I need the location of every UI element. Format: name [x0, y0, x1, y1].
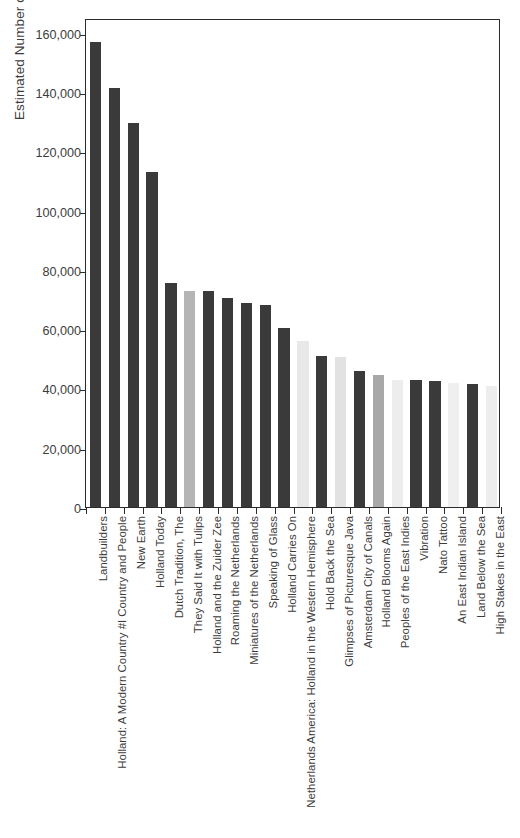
x-label: Speaking of Glass [268, 516, 279, 608]
bar-chart: Estimated Number of Viewers 020,00040,00… [0, 0, 520, 838]
x-tick-label: Land Below the Sea [476, 516, 487, 618]
y-tick-label: 20,000 [42, 443, 81, 456]
bar [410, 380, 421, 507]
x-tick-label: Holland Blooms Again [381, 516, 392, 627]
x-tick-mark [275, 507, 276, 514]
bar [467, 384, 478, 507]
x-tick-label: Roaming the Netherlands [230, 516, 241, 645]
x-tick-mark [237, 507, 238, 514]
bar [448, 383, 459, 507]
bar [260, 305, 271, 507]
x-label: Peoples of the East Indies [400, 516, 411, 648]
bar [222, 298, 233, 507]
bar [429, 381, 440, 507]
x-tick-label: Holland and the Zuider Zee [212, 516, 223, 654]
x-tick-mark [312, 507, 313, 514]
x-tick-mark [143, 507, 144, 514]
y-tick-label: 80,000 [42, 266, 81, 279]
y-tick-label: 40,000 [42, 384, 81, 397]
y-tick-label: 140,000 [35, 88, 81, 101]
bar [203, 291, 214, 507]
x-label: New Earth [136, 516, 147, 569]
bar [90, 42, 101, 507]
x-label: High Stakes in the East [495, 516, 506, 634]
x-tick-label: Holland Today [155, 516, 166, 588]
x-label: Holland: A Modern Country #I Country and… [117, 516, 128, 769]
bar [184, 291, 195, 507]
bar [146, 172, 157, 507]
x-tick-mark [482, 507, 483, 514]
x-tick-label: An East Indian Island [457, 516, 468, 624]
bar-series [86, 20, 499, 507]
x-tick-label: Holland: A Modern Country #I Country and… [117, 516, 128, 769]
x-tick-label: Landbuilders [98, 516, 109, 581]
x-tick-mark [256, 507, 257, 514]
bar [128, 123, 139, 507]
x-label: Holland and the Zuider Zee [212, 516, 223, 654]
x-label: Roaming the Netherlands [230, 516, 241, 645]
x-label: An East Indian Island [457, 516, 468, 624]
x-tick-label: Glimpses of Picturesque Java [344, 516, 355, 667]
y-axis-title-container: Estimated Number of Viewers [10, 0, 36, 520]
x-tick-mark [161, 507, 162, 514]
x-label: Dutch Tradition, The [174, 516, 185, 618]
x-tick-label: Peoples of the East Indies [400, 516, 411, 648]
y-tick-label: 160,000 [35, 29, 81, 42]
x-label: Holland Blooms Again [381, 516, 392, 627]
x-tick-label: Speaking of Glass [268, 516, 279, 608]
x-tick-mark [444, 507, 445, 514]
x-label: Holland Carries On [287, 516, 298, 613]
x-tick-mark [501, 507, 502, 514]
plot-area: 020,00040,00060,00080,000100,000120,0001… [85, 19, 500, 508]
y-tick-label: 100,000 [35, 206, 81, 219]
y-tick-label: 0 [74, 503, 81, 516]
x-label: Landbuilders [98, 516, 109, 581]
x-tick-mark [218, 507, 219, 514]
x-label: Hold Back the Sea [325, 516, 336, 610]
x-label: They Said It with Tulips [193, 516, 204, 633]
x-tick-label: Vibration [419, 516, 430, 561]
x-tick-label: Amsterdam City of Canals [363, 516, 374, 648]
x-label: Amsterdam City of Canals [363, 516, 374, 648]
x-tick-mark [180, 507, 181, 514]
bar [165, 283, 176, 507]
x-tick-mark [407, 507, 408, 514]
x-tick-mark [331, 507, 332, 514]
bar [354, 371, 365, 507]
y-tick-label: 60,000 [42, 325, 81, 338]
x-tick-label: Dutch Tradition, The [174, 516, 185, 618]
x-tick-mark [369, 507, 370, 514]
x-tick-label: Nato Tattoo [438, 516, 449, 574]
bar [373, 375, 384, 507]
x-label: Miniatures of the Netherlands [249, 516, 260, 665]
x-tick-mark [86, 507, 87, 514]
x-tick-mark [350, 507, 351, 514]
x-tick-label: Holland Carries On [287, 516, 298, 613]
x-tick-mark [463, 507, 464, 514]
x-tick-mark [388, 507, 389, 514]
x-label: Glimpses of Picturesque Java [344, 516, 355, 667]
x-label: Netherlands America: Holland in the West… [306, 516, 317, 808]
y-tick-label: 120,000 [35, 147, 81, 160]
bar [335, 357, 346, 507]
bar [109, 88, 120, 507]
bar [241, 303, 252, 507]
x-label: Vibration [419, 516, 430, 561]
x-tick-label: High Stakes in the East [495, 516, 506, 634]
x-tick-label: Miniatures of the Netherlands [249, 516, 260, 665]
x-tick-label: Hold Back the Sea [325, 516, 336, 610]
x-tick-label: New Earth [136, 516, 147, 569]
bar [297, 341, 308, 507]
y-axis-title: Estimated Number of Viewers [12, 0, 27, 120]
bar [316, 356, 327, 507]
bar [392, 380, 403, 507]
x-label: Land Below the Sea [476, 516, 487, 618]
x-tick-label: They Said It with Tulips [193, 516, 204, 633]
bar [278, 328, 289, 507]
x-tick-mark [199, 507, 200, 514]
x-tick-mark [294, 507, 295, 514]
x-tick-label: Netherlands America: Holland in the West… [306, 516, 317, 808]
x-tick-mark [105, 507, 106, 514]
x-axis-labels: LandbuildersHolland: A Modern Country #I… [85, 516, 500, 836]
x-tick-mark [124, 507, 125, 514]
